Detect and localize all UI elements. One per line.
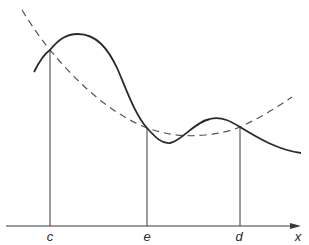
dashed-curve	[22, 10, 292, 136]
point-label-d: d	[235, 229, 243, 244]
axis-label-x: x	[294, 229, 302, 244]
point-label-e: e	[143, 229, 150, 244]
solid-curve	[34, 34, 301, 153]
point-label-c: c	[47, 229, 54, 244]
diagram-canvas: c e d x	[0, 0, 309, 245]
